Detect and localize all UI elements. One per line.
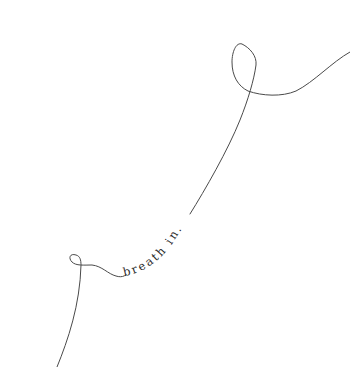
line-art-canvas: breath in. [0,0,350,367]
thread-line-lower [57,255,124,367]
line-art-svg: breath in. [0,0,350,367]
breath-in-text: breath in. [122,221,186,279]
thread-line-upper [190,44,350,214]
